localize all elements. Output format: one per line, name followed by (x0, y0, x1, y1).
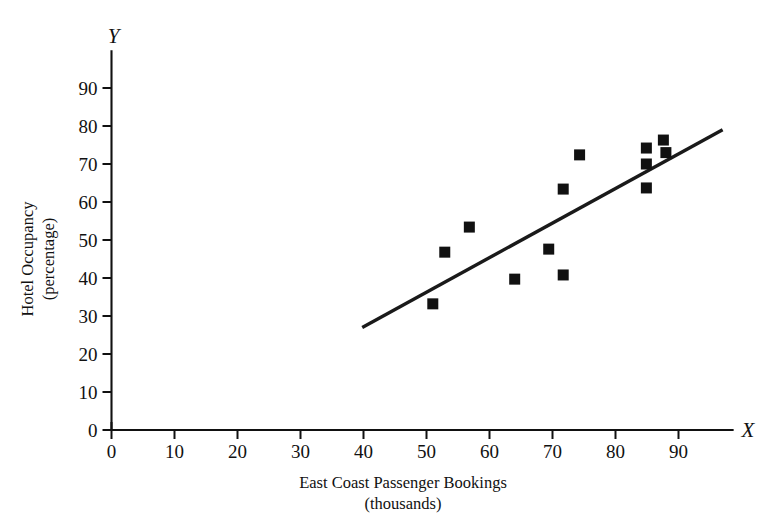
data-point-marker (641, 143, 652, 154)
plot-canvas: 0102030405060708090 0102030405060708090 … (0, 0, 783, 528)
y-axis-title: Hotel Occupancy (18, 201, 37, 317)
y-tick-label: 90 (79, 78, 98, 99)
data-points (427, 135, 671, 310)
y-axis-letter: Y (108, 24, 122, 48)
data-point-marker (427, 298, 438, 309)
x-axis-ticks: 0102030405060708090 (107, 422, 688, 462)
x-axis-letter: X (741, 418, 756, 442)
data-point-marker (641, 159, 652, 170)
y-tick-label: 0 (88, 420, 98, 441)
data-point-marker (558, 184, 569, 195)
x-tick-label: 70 (543, 441, 562, 462)
y-tick-label: 30 (79, 306, 98, 327)
x-tick-label: 20 (228, 441, 247, 462)
x-tick-label: 80 (606, 441, 625, 462)
y-tick-label: 80 (79, 116, 98, 137)
y-tick-label: 40 (79, 268, 98, 289)
y-tick-label: 20 (79, 344, 98, 365)
y-axis-ticks: 0102030405060708090 (79, 78, 112, 441)
data-point-marker (439, 247, 450, 258)
y-tick-label: 60 (79, 192, 98, 213)
x-axis-subtitle: (thousands) (365, 494, 442, 513)
data-point-marker (574, 149, 585, 160)
data-point-marker (641, 182, 652, 193)
axis-titles: XYEast Coast Passenger Bookings(thousand… (18, 24, 756, 513)
trend-line (362, 130, 722, 328)
data-point-marker (660, 147, 671, 158)
x-tick-label: 0 (107, 441, 117, 462)
x-axis-title: East Coast Passenger Bookings (299, 473, 507, 492)
y-tick-label: 70 (79, 154, 98, 175)
data-point-marker (464, 222, 475, 233)
data-point-marker (658, 135, 669, 146)
data-point-marker (543, 244, 554, 255)
y-tick-label: 50 (79, 230, 98, 251)
x-tick-label: 90 (669, 441, 688, 462)
regression-line (362, 130, 722, 328)
x-tick-label: 50 (417, 441, 436, 462)
x-tick-label: 30 (291, 441, 310, 462)
y-tick-label: 10 (79, 382, 98, 403)
y-axis-subtitle: (percentage) (39, 218, 58, 300)
axes (112, 51, 733, 430)
x-tick-label: 10 (165, 441, 184, 462)
scatter-plot-figure: 0102030405060708090 0102030405060708090 … (0, 0, 783, 528)
data-point-marker (558, 269, 569, 280)
data-point-marker (509, 274, 520, 285)
x-tick-label: 60 (480, 441, 499, 462)
x-tick-label: 40 (354, 441, 373, 462)
